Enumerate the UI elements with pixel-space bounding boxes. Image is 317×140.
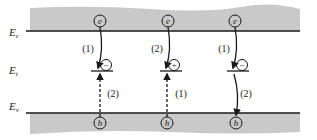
svg-text:h: h	[165, 118, 170, 128]
svg-text:e: e	[233, 16, 237, 26]
recombination-arrow	[234, 74, 238, 115]
et-label: Et	[8, 64, 19, 78]
process-3: e (1) − (2) h	[218, 15, 252, 129]
process-2: e (2) + (1) h	[151, 15, 187, 129]
conduction-band-region	[30, 4, 300, 31]
svg-text:e: e	[98, 16, 102, 26]
ec-label: Ec	[8, 26, 20, 40]
svg-text:−: −	[239, 60, 245, 70]
band-diagram: Ec Et Ev e (1) − (2) h e (2) + (1) h e (…	[0, 0, 317, 140]
capture-arrow	[233, 27, 237, 68]
svg-text:h: h	[98, 118, 103, 128]
step-label: (2)	[151, 43, 163, 55]
svg-text:+: +	[171, 60, 177, 70]
step-label: (2)	[240, 88, 252, 100]
step-label: (1)	[82, 43, 94, 55]
svg-text:e: e	[166, 16, 170, 26]
svg-text:−: −	[103, 60, 109, 70]
ev-label: Ev	[8, 100, 20, 114]
step-label: (2)	[107, 88, 119, 100]
svg-text:h: h	[234, 118, 239, 128]
step-label: (1)	[175, 88, 187, 100]
process-1: e (1) − (2) h	[82, 15, 119, 129]
step-label: (1)	[218, 43, 230, 55]
